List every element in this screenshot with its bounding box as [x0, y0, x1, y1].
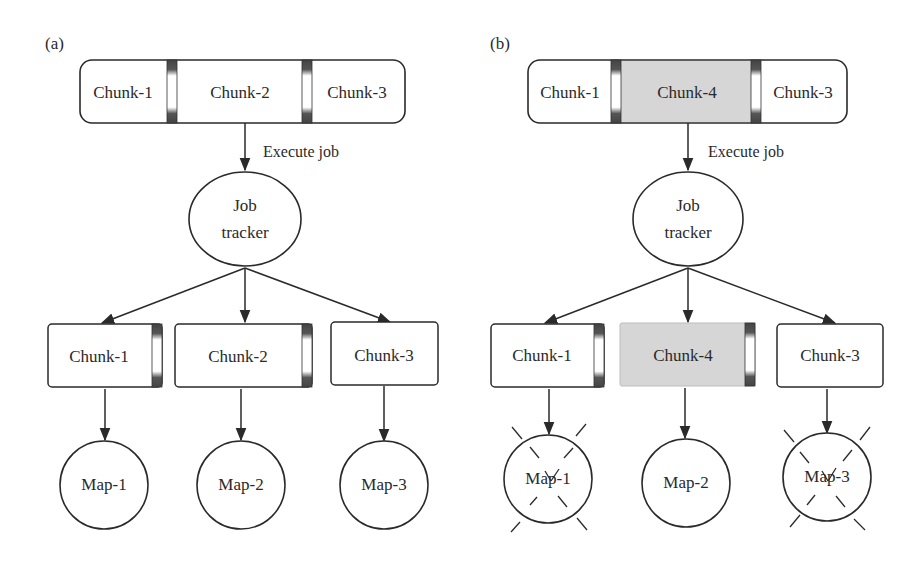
panel-b: (b) Chunk-1 Chunk-4 Chunk-3 Execute job … — [490, 34, 883, 532]
chunk-node: Chunk-3 — [777, 324, 883, 387]
chunk-separator — [167, 60, 177, 123]
job-tracker-label-line1: Job — [676, 196, 700, 215]
chunk-label: Chunk-3 — [800, 346, 860, 365]
chunk-label: Chunk-3 — [354, 346, 414, 365]
file-chunk-label: Chunk-4 — [657, 83, 717, 102]
map-label: Map-3 — [361, 475, 406, 494]
dispatch-arrow — [245, 268, 390, 322]
map-label: Map-3 — [804, 467, 849, 486]
chunk-label: Chunk-4 — [653, 346, 713, 365]
chunk-separator — [745, 323, 755, 386]
chunk-separator — [302, 60, 312, 123]
chunk-separator — [152, 324, 162, 387]
chunk-label: Chunk-1 — [69, 347, 129, 366]
panel-a: (a) Chunk-1 Chunk-2 Chunk-3 Execute job … — [45, 34, 438, 529]
chunk-node-highlighted: Chunk-4 — [620, 323, 755, 386]
panel-label: (a) — [45, 34, 64, 53]
map-node: Map-2 — [642, 439, 730, 527]
chunk-separator — [611, 60, 621, 123]
dispatch-arrow — [102, 268, 245, 323]
chunk-node: Chunk-3 — [331, 322, 438, 385]
dispatch-arrow — [545, 268, 688, 323]
job-tracker-node: Job tracker — [189, 172, 301, 266]
chunk-node: Chunk-1 — [491, 324, 604, 387]
map-label: Map-1 — [525, 469, 570, 488]
chunk-label: Chunk-2 — [208, 347, 268, 366]
chunk-node: Chunk-2 — [175, 324, 312, 387]
chunk-separator — [751, 60, 761, 123]
edge-label: Execute job — [708, 143, 784, 161]
file-chunk-label: Chunk-3 — [773, 83, 833, 102]
dispatch-arrow — [688, 268, 835, 323]
chunk-label: Chunk-1 — [512, 346, 572, 365]
file-bar: Chunk-1 Chunk-2 Chunk-3 — [80, 60, 405, 123]
chunk-separator — [302, 324, 312, 387]
mapreduce-diagram: (a) Chunk-1 Chunk-2 Chunk-3 Execute job … — [0, 0, 923, 562]
edge-label: Execute job — [263, 143, 339, 161]
file-chunk-label: Chunk-3 — [327, 83, 387, 102]
job-tracker-label-line1: Job — [233, 196, 257, 215]
job-tracker-label-line2: tracker — [221, 223, 269, 242]
map-node-failed: Map-1 — [504, 424, 592, 532]
job-tracker-label-line2: tracker — [664, 223, 712, 242]
map-label: Map-1 — [81, 475, 126, 494]
map-label: Map-2 — [663, 473, 708, 492]
chunk-separator — [594, 324, 604, 387]
panel-label: (b) — [490, 34, 510, 53]
map-node: Map-3 — [340, 441, 428, 529]
file-chunk-label: Chunk-1 — [93, 83, 153, 102]
file-chunk-label: Chunk-2 — [210, 83, 270, 102]
file-chunk-label: Chunk-1 — [540, 83, 600, 102]
map-label: Map-2 — [218, 475, 263, 494]
file-bar: Chunk-1 Chunk-4 Chunk-3 — [528, 60, 847, 123]
map-node: Map-2 — [197, 441, 285, 529]
map-node: Map-1 — [60, 441, 148, 529]
job-tracker-node: Job tracker — [633, 172, 743, 266]
map-node-failed: Map-3 — [783, 427, 871, 530]
chunk-node: Chunk-1 — [48, 324, 162, 387]
